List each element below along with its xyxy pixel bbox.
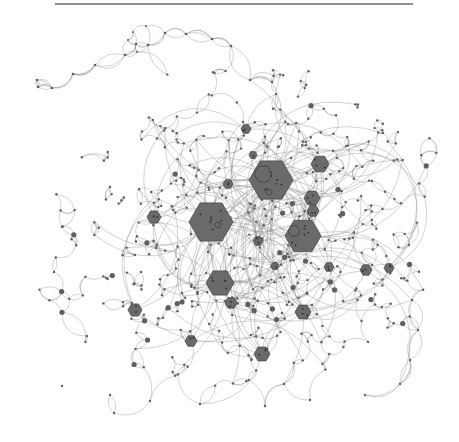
graph-edge (303, 342, 311, 361)
graph-node (289, 259, 291, 261)
edge-layer (36, 25, 437, 415)
graph-edge (369, 133, 378, 142)
graph-node (248, 233, 250, 235)
graph-node (271, 81, 274, 84)
graph-node (348, 237, 350, 239)
graph-node (285, 202, 287, 204)
hub-inner-dot (212, 229, 214, 231)
graph-node (301, 144, 303, 146)
graph-node (81, 156, 83, 158)
hub-inner-dot (227, 184, 229, 186)
graph-node (109, 186, 111, 188)
graph-node (284, 121, 286, 123)
graph-node (277, 250, 282, 255)
graph-node (186, 207, 188, 209)
graph-node (163, 129, 165, 131)
graph-edge (177, 122, 246, 134)
graph-node (288, 256, 290, 258)
graph-node (126, 271, 128, 273)
graph-node (315, 144, 317, 146)
graph-edge (216, 299, 225, 301)
graph-node (103, 160, 105, 162)
graph-node (335, 114, 337, 116)
graph-edge (85, 276, 103, 279)
graph-edge (95, 54, 125, 65)
graph-node (210, 244, 212, 246)
graph-node (270, 278, 272, 280)
graph-node (325, 178, 327, 180)
graph-node (295, 275, 297, 277)
graph-node (252, 305, 254, 307)
graph-node (172, 130, 174, 132)
graph-node (62, 225, 64, 227)
graph-node (110, 193, 112, 195)
graph-node (315, 180, 317, 182)
graph-node (292, 259, 294, 261)
graph-edge (146, 25, 165, 33)
graph-edge (412, 300, 423, 330)
graph-node (328, 353, 330, 355)
graph-node (164, 250, 166, 252)
graph-node (376, 119, 378, 121)
graph-node (264, 215, 266, 217)
hub-inner-dot (309, 202, 311, 204)
hub-inner-dot (291, 242, 293, 244)
graph-node (360, 320, 362, 322)
hub-inner-dot (244, 129, 246, 131)
graph-node (422, 289, 424, 291)
graph-edge (345, 338, 368, 342)
graph-node (177, 373, 179, 375)
graph-edge (323, 282, 328, 290)
graph-node (382, 123, 384, 125)
graph-node (249, 203, 251, 205)
graph-edge (265, 384, 284, 406)
graph-node (371, 223, 373, 225)
graph-node (190, 233, 192, 235)
graph-node (364, 209, 366, 211)
hub-inner-dot (316, 165, 318, 167)
graph-node (193, 167, 195, 169)
graph-node (259, 274, 261, 276)
graph-node (250, 334, 252, 336)
graph-node (185, 194, 187, 196)
graph-node (281, 292, 283, 294)
graph-edge (133, 32, 136, 44)
hub-inner-dot (265, 350, 267, 352)
hub-node-hexagon (307, 206, 319, 216)
graph-node (221, 341, 223, 343)
graph-node (165, 308, 167, 310)
graph-node (385, 255, 387, 257)
graph-node (71, 232, 76, 237)
graph-node (252, 288, 254, 290)
graph-node (259, 246, 261, 248)
graph-node (279, 108, 281, 110)
graph-edge (353, 238, 389, 268)
hub-inner-dot (314, 212, 316, 214)
hub-inner-dot (190, 338, 192, 340)
graph-node (156, 244, 158, 246)
graph-edge (303, 231, 423, 289)
graph-edge (346, 199, 358, 203)
graph-node (195, 175, 197, 177)
hub-inner-dot (256, 237, 258, 239)
graph-node (371, 210, 373, 212)
graph-node (307, 340, 309, 342)
graph-node (287, 123, 289, 125)
graph-edge (172, 357, 184, 365)
graph-node (225, 197, 227, 199)
graph-node (191, 300, 193, 302)
graph-node (227, 139, 229, 141)
graph-node (105, 277, 107, 279)
graph-node (207, 251, 209, 253)
graph-node (297, 282, 299, 284)
graph-node (332, 133, 334, 135)
graph-node (239, 345, 241, 347)
graph-edge (95, 55, 125, 68)
graph-node (371, 264, 373, 266)
graph-node (395, 142, 397, 144)
hub-node-hexagon (225, 298, 237, 308)
graph-edge (103, 303, 123, 309)
graph-edge (103, 299, 122, 303)
graph-edge (333, 115, 338, 134)
graph-node (231, 314, 233, 316)
